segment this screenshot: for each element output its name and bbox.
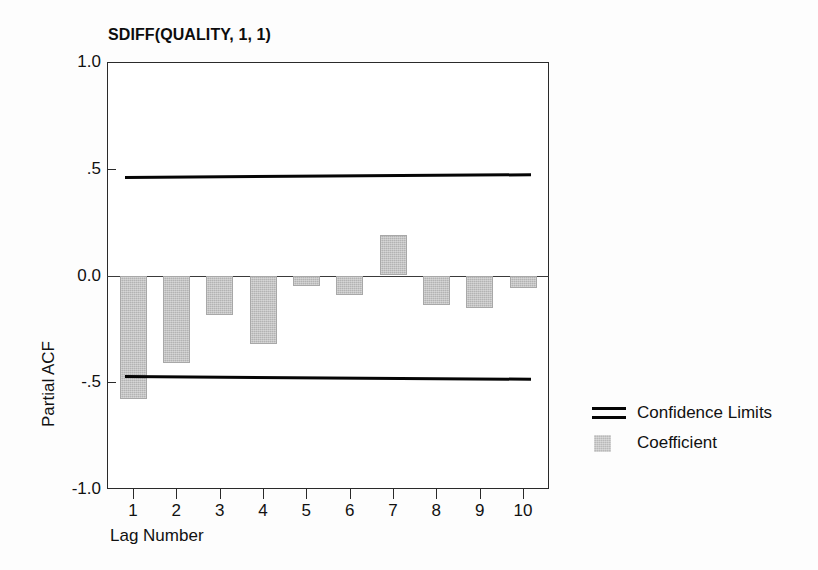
y-axis-title: Partial ACF [39,304,59,464]
x-tick-label: 7 [373,501,413,521]
legend-label: Coefficient [637,433,717,453]
y-tick-label: .5 [45,159,101,179]
chart-title: SDIFF(QUALITY, 1, 1) [108,26,271,44]
x-tick-label: 8 [416,501,456,521]
x-tick-label: 2 [156,501,196,521]
y-tick-mark [107,169,116,170]
x-tick-mark [523,489,524,499]
x-tick-mark [306,489,307,499]
chart-page: SDIFF(QUALITY, 1, 1) 1.0.50.0-.5-1.0 Par… [0,0,818,570]
x-tick-label: 3 [200,501,240,521]
x-tick-label: 10 [503,501,543,521]
legend-item-coefficient: Coefficient [592,428,802,458]
legend-item-confidence-limits: Confidence Limits [592,398,802,428]
x-tick-label: 6 [330,501,370,521]
legend-label: Confidence Limits [637,403,772,423]
bar-lag-5 [293,276,320,287]
x-tick-mark [220,489,221,499]
x-tick-label: 5 [286,501,326,521]
bar-lag-7 [380,235,407,276]
x-tick-mark [350,489,351,499]
x-tick-mark [393,489,394,499]
x-tick-mark [263,489,264,499]
confidence-limits-key-icon [592,402,626,424]
bar-lag-3 [206,276,233,315]
x-tick-mark [480,489,481,499]
y-tick-mark [107,382,116,383]
y-tick-label: -1.0 [45,479,101,499]
x-tick-mark [176,489,177,499]
bar-lag-2 [163,276,190,364]
x-tick-mark [436,489,437,499]
bar-lag-9 [466,276,493,308]
bar-lag-10 [510,276,537,289]
bar-lag-8 [423,276,450,306]
x-axis-title: Lag Number [110,526,204,546]
x-tick-label: 1 [113,501,153,521]
y-tick-label: 1.0 [45,52,101,72]
x-tick-label: 9 [460,501,500,521]
bar-lag-4 [250,276,277,344]
chart-legend: Confidence LimitsCoefficient [592,398,802,458]
x-tick-mark [133,489,134,499]
bar-lag-1 [120,276,147,400]
coefficient-swatch-icon [594,435,611,452]
x-tick-label: 4 [243,501,283,521]
bar-lag-6 [336,276,363,295]
y-tick-label: 0.0 [45,266,101,286]
